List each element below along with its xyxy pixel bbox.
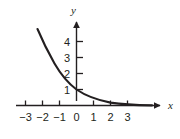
x-tick-label--3: −3 (19, 112, 32, 123)
y-axis-tick-marks (77, 42, 84, 90)
axes-group (16, 22, 160, 106)
x-tick-label-3: 3 (124, 112, 130, 123)
y-tick-label-4: 4 (51, 36, 70, 47)
y-tick-label-2: 2 (51, 68, 70, 79)
y-axis-label: y (71, 5, 76, 16)
x-tick-label--1: −1 (53, 112, 66, 123)
x-tick-label-2: 2 (107, 112, 113, 123)
x-axis-label: x (168, 100, 173, 111)
exponential-decay-graph-figure: −3 −2 −1 0 1 2 3 1 2 3 4 y x (0, 0, 180, 139)
x-tick-label-1: 1 (90, 112, 96, 123)
x-tick-label-0: 0 (73, 112, 79, 123)
y-tick-label-3: 3 (51, 52, 70, 63)
y-tick-label-1: 1 (51, 84, 70, 95)
x-tick-label--2: −2 (36, 112, 49, 123)
